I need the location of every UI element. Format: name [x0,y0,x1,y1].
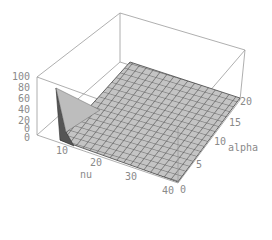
z-tick-0b: 0 [24,133,30,143]
z-tick-80: 80 [18,83,30,93]
alpha-tick-15: 15 [229,118,241,128]
alpha-axis-label: alpha [228,143,258,153]
nu-tick-40: 40 [162,186,174,196]
alpha-tick-20: 20 [240,97,252,107]
nu-tick-30: 30 [125,172,137,182]
z-tick-40: 40 [18,105,30,115]
alpha-tick-0: 0 [180,185,186,195]
nu-tick-10: 10 [56,146,68,156]
nu-tick-20: 20 [90,158,102,168]
z-tick-60: 60 [18,94,30,104]
alpha-tick-10: 10 [214,137,226,147]
surface [56,62,240,182]
nu-axis-label: nu [80,170,92,180]
z-tick-100: 100 [12,72,30,82]
alpha-tick-5: 5 [196,160,202,170]
